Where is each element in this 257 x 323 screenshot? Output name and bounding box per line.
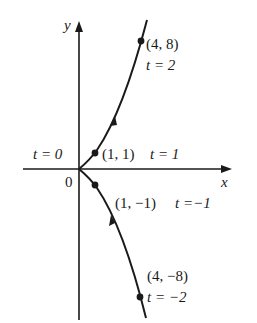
direction-arrow-upper-icon <box>110 116 117 126</box>
label-t-2: t = 2 <box>146 57 176 73</box>
label-point-4-neg8: (4, −8) <box>147 268 188 285</box>
y-axis-arrow-icon <box>75 21 83 32</box>
y-axis-label: y <box>62 17 71 33</box>
label-point-1-1: (1, 1) <box>102 146 135 163</box>
x-axis-label: x <box>220 174 228 190</box>
point-1-neg1 <box>92 182 99 189</box>
parametric-curve-diagram: y x 0 (4, 8) t = 2 (1, 1) t = 1 t = 0 (1… <box>0 0 257 323</box>
label-t-1: t = 1 <box>150 146 179 162</box>
point-4-neg8 <box>137 294 144 301</box>
point-4-8 <box>138 38 145 45</box>
label-point-4-8: (4, 8) <box>146 36 179 53</box>
x-axis-arrow-icon <box>221 165 232 173</box>
label-t-neg2: t = −2 <box>147 289 187 305</box>
curve-lower-branch <box>79 169 146 318</box>
point-1-1 <box>92 150 99 157</box>
origin-label: 0 <box>65 174 73 190</box>
label-t-0: t = 0 <box>33 146 63 162</box>
label-point-1-neg1: (1, −1) <box>115 195 156 212</box>
label-t-neg1: t =−1 <box>175 195 211 211</box>
